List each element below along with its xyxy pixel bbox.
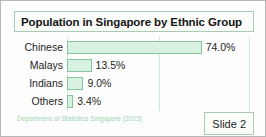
bar-value-label: 74.0% — [206, 41, 236, 53]
bar-row-chinese: Chinese 74.0% — [14, 38, 254, 56]
bar-indians — [67, 77, 83, 90]
bar-category-label: Chinese — [14, 41, 67, 53]
bar-chinese — [67, 41, 202, 54]
slide-canvas: Population in Singapore by Ethnic Group … — [0, 0, 266, 137]
bar-row-malays: Malays 13.5% — [14, 56, 254, 74]
bar-track: 9.0% — [67, 74, 254, 92]
bar-others — [67, 95, 73, 108]
bar-value-label: 9.0% — [87, 77, 111, 89]
bar-category-label: Others — [14, 95, 67, 107]
slide-number-label: Slide 2 — [212, 118, 246, 130]
bar-malays — [67, 59, 92, 72]
bar-track: 74.0% — [67, 38, 254, 56]
page-title: Population in Singapore by Ethnic Group — [21, 16, 242, 28]
bar-row-others: Others 3.4% — [14, 92, 254, 110]
bar-rows: Chinese 74.0% Malays 13.5% Indians 9.0% — [14, 37, 254, 111]
source-attribution: Department of Statistics Singapore (2023… — [17, 115, 142, 122]
bar-category-label: Malays — [14, 59, 67, 71]
bar-value-label: 3.4% — [77, 95, 101, 107]
bar-track: 13.5% — [67, 56, 254, 74]
bar-track: 3.4% — [67, 92, 254, 110]
bar-category-label: Indians — [14, 77, 67, 89]
bar-chart-plot-area: Chinese 74.0% Malays 13.5% Indians 9.0% — [14, 37, 254, 111]
slide-number-badge: Slide 2 — [204, 112, 254, 135]
bar-row-indians: Indians 9.0% — [14, 74, 254, 92]
slide-title-box: Population in Singapore by Ethnic Group — [14, 11, 254, 32]
bar-value-label: 13.5% — [96, 59, 126, 71]
